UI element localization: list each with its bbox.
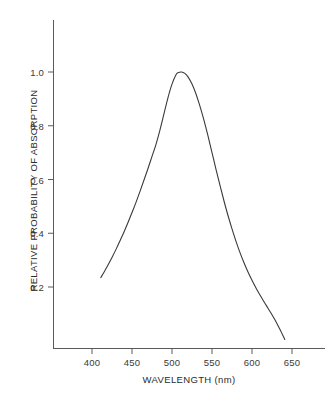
absorption-curve: [101, 72, 285, 339]
x-tick-label: 450: [124, 357, 140, 368]
x-tick-label: 650: [284, 357, 300, 368]
plot-area: [0, 0, 334, 398]
x-tick-label: 550: [204, 357, 220, 368]
y-axis-title: RELATIVE PROBABILITY OF ABSORPTION: [28, 71, 39, 311]
x-tick-label: 600: [244, 357, 260, 368]
x-axis-ticks: [92, 349, 292, 355]
x-tick-label: 400: [84, 357, 100, 368]
absorption-spectrum-chart: 0.20.40.60.81.0 400450500550600650 RELAT…: [0, 0, 334, 398]
x-axis-title: WAVELENGTH (nm): [53, 374, 325, 385]
x-tick-label: 500: [164, 357, 180, 368]
y-axis-ticks: [48, 72, 54, 287]
